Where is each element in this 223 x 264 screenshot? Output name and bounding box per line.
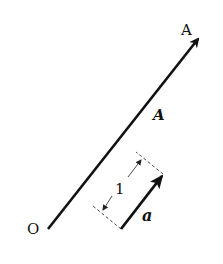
label-vector-A: A bbox=[151, 106, 165, 124]
dashed-extension-top bbox=[136, 152, 163, 174]
label-origin-O: O bbox=[27, 220, 39, 238]
dimension-arrow-upper bbox=[128, 160, 141, 177]
label-point-A: A bbox=[180, 21, 192, 39]
dimension-arrow-lower bbox=[103, 196, 112, 210]
vector-diagram: A O A a 1 bbox=[0, 0, 223, 264]
vector-A-line bbox=[48, 39, 198, 229]
dashed-extension-bottom bbox=[93, 206, 121, 229]
label-unit-length: 1 bbox=[115, 180, 125, 198]
label-unit-vector-a: a bbox=[142, 206, 152, 225]
